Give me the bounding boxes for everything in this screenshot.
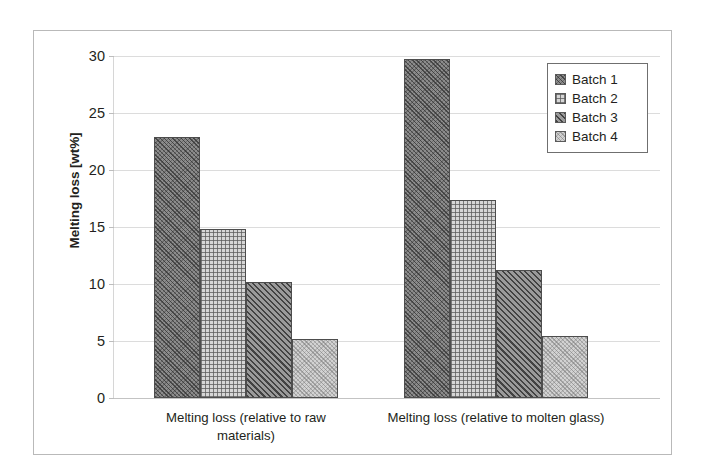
y-tick-mark [109, 341, 114, 342]
y-tick-mark [109, 56, 114, 57]
category-label-1: Melting loss (relative to rawmaterials) [116, 409, 376, 445]
legend-label: Batch 2 [572, 91, 618, 106]
bar-batch-3-cat2 [496, 270, 542, 398]
legend-swatch-icon [555, 93, 566, 104]
legend-item-batch-1[interactable]: Batch 1 [555, 70, 639, 89]
bar-batch-3-cat1 [246, 282, 292, 398]
legend: Batch 1Batch 2Batch 3Batch 4 [547, 63, 648, 153]
legend-label: Batch 3 [572, 110, 618, 125]
legend-swatch-icon [555, 74, 566, 85]
bar-batch-4-cat2 [542, 336, 588, 398]
y-tick-label: 0 [97, 390, 105, 406]
y-tick-label: 10 [89, 276, 105, 292]
legend-item-batch-3[interactable]: Batch 3 [555, 108, 639, 127]
y-tick-label: 30 [89, 48, 105, 64]
bar-batch-4-cat1 [292, 339, 338, 398]
category-label-2: Melting loss (relative to molten glass) [366, 409, 626, 427]
legend-label: Batch 1 [572, 72, 618, 87]
y-tick-mark [109, 227, 114, 228]
chart-frame: Melting loss [wt%] 051015202530 Melting … [33, 30, 672, 455]
bar-batch-2-cat1 [200, 229, 246, 398]
legend-swatch-icon [555, 131, 566, 142]
y-tick-label: 25 [89, 105, 105, 121]
legend-item-batch-4[interactable]: Batch 4 [555, 127, 639, 146]
y-tick-mark [109, 170, 114, 171]
y-tick-label: 20 [89, 162, 105, 178]
y-axis-title: Melting loss [wt%] [67, 91, 82, 291]
gridline [114, 398, 660, 399]
gridline [114, 56, 660, 57]
bar-batch-2-cat2 [450, 200, 496, 398]
legend-label: Batch 4 [572, 129, 618, 144]
legend-swatch-icon [555, 112, 566, 123]
bar-batch-1-cat1 [154, 137, 200, 398]
bar-batch-1-cat2 [404, 59, 450, 398]
y-tick-mark [109, 113, 114, 114]
y-tick-label: 5 [97, 333, 105, 349]
legend-item-batch-2[interactable]: Batch 2 [555, 89, 639, 108]
y-tick-label: 15 [89, 219, 105, 235]
y-tick-mark [109, 284, 114, 285]
y-tick-mark [109, 398, 114, 399]
